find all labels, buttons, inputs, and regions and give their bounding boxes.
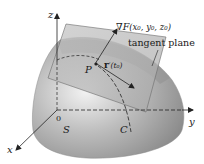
y-axis-label: y: [188, 116, 195, 127]
gradient-label: ∇F(x₀, y₀, z₀): [116, 21, 171, 32]
point-p-label: P: [84, 64, 92, 75]
point-p-marker: [94, 62, 97, 65]
gradient-args: (x₀, y₀, z₀): [129, 22, 171, 32]
tangent-vector-arg: ′(t₀): [109, 61, 123, 70]
curve-c-label: C: [120, 124, 128, 135]
tangent-vector-label: r′(t₀): [104, 60, 122, 70]
tangent-plane-label: tangent plane: [128, 37, 195, 48]
tangent-plane-diagram: z y x 0 ∇F(x₀, y₀, z₀) tangent plane P r…: [0, 0, 204, 164]
origin-label: 0: [56, 114, 61, 123]
surface-s-label: S: [63, 124, 70, 135]
x-axis-label: x: [7, 144, 13, 155]
z-axis-label: z: [47, 9, 54, 20]
